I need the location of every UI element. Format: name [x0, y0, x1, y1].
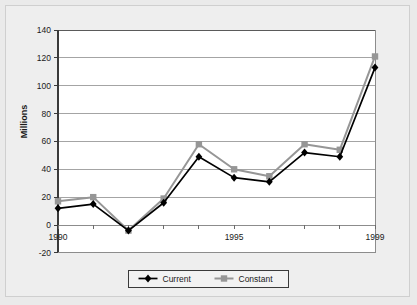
y-tick-label: 0: [46, 220, 51, 230]
y-tick-label: 40: [42, 164, 52, 174]
chart-figure: 140120100806040200-20 199019951999 Milli…: [0, 0, 417, 305]
x-tick-label: 1999: [366, 232, 385, 242]
data-point-marker-square: [55, 198, 61, 204]
legend-label: Current: [163, 274, 192, 284]
y-tick-label: 100: [37, 81, 51, 91]
y-tick-label: 120: [37, 53, 51, 63]
data-point-marker-square: [372, 53, 378, 59]
y-tick-label: 80: [42, 109, 52, 119]
y-axis-title-text: Millions: [19, 105, 29, 139]
y-tick-label: 60: [42, 136, 52, 146]
x-tick-label: 1990: [49, 232, 68, 242]
y-tick-label: -20: [39, 248, 52, 258]
data-point-marker-square: [231, 166, 237, 172]
data-point-marker-square: [196, 141, 202, 147]
y-tick-label: 20: [42, 192, 52, 202]
y-axis-title: Millions: [19, 105, 29, 139]
data-point-marker-square: [301, 141, 307, 147]
chart-legend[interactable]: CurrentConstant: [129, 270, 289, 287]
y-tick-label: 140: [37, 25, 51, 35]
legend-label: Constant: [239, 274, 274, 284]
data-point-marker-square: [90, 194, 96, 200]
line-chart: 140120100806040200-20 199019951999 Milli…: [0, 0, 417, 305]
y-axis-tick-labels: 140120100806040200-20: [37, 25, 51, 258]
data-point-marker-square: [221, 275, 227, 281]
x-tick-label: 1995: [225, 232, 244, 242]
